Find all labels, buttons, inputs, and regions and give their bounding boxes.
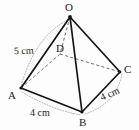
vertex-label-O: O (65, 2, 73, 13)
vertex-label-D: D (56, 43, 64, 54)
vertex-point-O (68, 15, 72, 19)
pyramid-diagram-svg (0, 0, 139, 130)
vertex-point-B (80, 110, 83, 113)
vertex-label-C: C (124, 64, 131, 75)
vertex-point-A (19, 86, 22, 89)
measure-label-oa: 5 cm (14, 46, 34, 57)
geometry-figure: O A B C D 5 cm 4 cm 4 cm (0, 0, 139, 130)
measure-label-ab: 4 cm (30, 108, 50, 118)
vertex-label-A: A (8, 90, 16, 101)
vertex-label-B: B (79, 117, 86, 128)
vertex-point-C (119, 71, 122, 74)
edge-OB (70, 17, 82, 112)
edge-OC (70, 17, 120, 72)
